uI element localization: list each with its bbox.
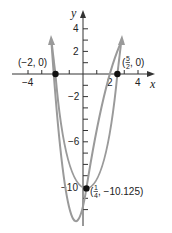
label-left-intercept: (−2, 0): [18, 57, 47, 68]
y-tick-label-2: 2: [73, 46, 79, 57]
y-tick-label-neg6: −6: [68, 136, 80, 147]
svg-text:, −10.125): , −10.125): [98, 186, 143, 197]
y-tick-label-4: 4: [73, 23, 79, 34]
x-axis: −4 2 4 x: [12, 70, 156, 91]
x-tick-label-4: 4: [135, 77, 141, 88]
chart-canvas: −4 2 4 x y 4 2 −2 −6: [0, 0, 172, 233]
y-axis-arrow-icon: [80, 10, 86, 18]
parabola-graph: −4 2 4 x y 4 2 −2 −6: [0, 0, 172, 233]
svg-text:, 0): , 0): [130, 57, 144, 68]
x-axis-label: x: [149, 77, 156, 91]
label-vertex: ( 1 4 , −10.125): [90, 184, 143, 199]
x-tick-label-neg4: −4: [22, 77, 34, 88]
y-tick-label-neg2: −2: [68, 91, 80, 102]
label-right-intercept: ( 5 2 , 0): [122, 55, 144, 70]
point-right-intercept: [114, 71, 120, 77]
y-axis: y 4 2 −2 −6 −10: [61, 6, 88, 226]
y-axis-label: y: [70, 6, 77, 20]
y-tick-label-neg10: −10: [61, 182, 78, 193]
point-left-intercept: [52, 71, 58, 77]
curve-arrow-right-icon: [118, 35, 125, 45]
point-vertex: [83, 185, 89, 191]
curve-arrow-left-icon: [48, 35, 55, 45]
